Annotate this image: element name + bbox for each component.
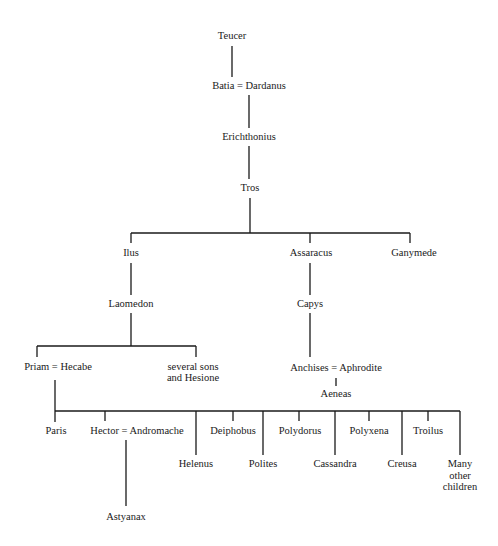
node-cassandra: Cassandra: [313, 458, 356, 470]
node-deiphobus: Deiphobus: [210, 425, 256, 437]
node-capys: Capys: [297, 298, 323, 310]
node-ganymede: Ganymede: [391, 247, 436, 259]
node-teucer: Teucer: [218, 30, 246, 42]
node-ilus: Ilus: [123, 247, 139, 259]
node-paris: Paris: [46, 425, 67, 437]
node-batia-dardanus: Batia = Dardanus: [212, 80, 286, 92]
node-laomedon: Laomedon: [109, 298, 154, 310]
node-helenus: Helenus: [179, 458, 213, 470]
family-tree-diagram: Teucer Batia = Dardanus Erichthonius Tro…: [0, 0, 498, 546]
node-polydorus: Polydorus: [279, 425, 322, 437]
node-creusa: Creusa: [387, 458, 416, 470]
node-many-line1: Many: [448, 458, 473, 470]
node-aeneas: Aeneas: [321, 388, 352, 400]
node-assaracus: Assaracus: [290, 247, 333, 259]
node-anchises-aphrodite: Anchises = Aphrodite: [290, 362, 382, 374]
node-several-sons-line2: and Hesione: [167, 372, 219, 384]
node-astyanax: Astyanax: [106, 511, 146, 523]
node-troilus: Troilus: [413, 425, 443, 437]
node-tros: Tros: [241, 182, 260, 194]
node-erichthonius: Erichthonius: [222, 131, 276, 143]
node-hector-andromache: Hector = Andromache: [90, 425, 183, 437]
node-polyxena: Polyxena: [349, 425, 388, 437]
node-priam-hecabe: Priam = Hecabe: [24, 361, 92, 373]
node-many-line3: children: [443, 481, 477, 493]
node-polites: Polites: [249, 458, 278, 470]
